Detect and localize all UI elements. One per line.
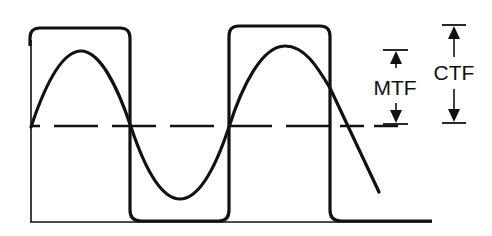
sine-wave (31, 46, 379, 199)
ctf-amplitude-arrow: CTF (434, 25, 475, 123)
mtf-ctf-diagram: MTF CTF (0, 0, 492, 236)
ctf-label: CTF (434, 61, 475, 84)
mtf-amplitude-arrow: MTF (373, 50, 416, 124)
mtf-label: MTF (373, 76, 416, 99)
